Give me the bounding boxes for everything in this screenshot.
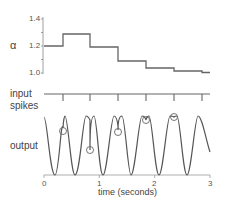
- ytick-1-4: 1.4: [29, 15, 40, 23]
- xtick-3: 3: [208, 180, 212, 188]
- input-spikes: [44, 94, 210, 101]
- ytick-1-2: 1.2: [29, 42, 40, 50]
- input-label: input: [10, 89, 32, 99]
- output-waveform: [44, 116, 210, 175]
- output-label: output: [10, 141, 38, 151]
- time-axis: [44, 175, 210, 178]
- alpha-label: α: [10, 40, 16, 51]
- figure: α 1.4 1.2 1.0 input spikes output 0 1 2 …: [0, 0, 227, 202]
- x-axis-label: time (seconds): [98, 188, 157, 197]
- alpha-step-line: [44, 34, 210, 73]
- xtick-0: 0: [42, 180, 46, 188]
- ytick-1-0: 1.0: [29, 69, 40, 77]
- spikes-label: spikes: [10, 101, 38, 111]
- alpha-axis: [41, 17, 43, 74]
